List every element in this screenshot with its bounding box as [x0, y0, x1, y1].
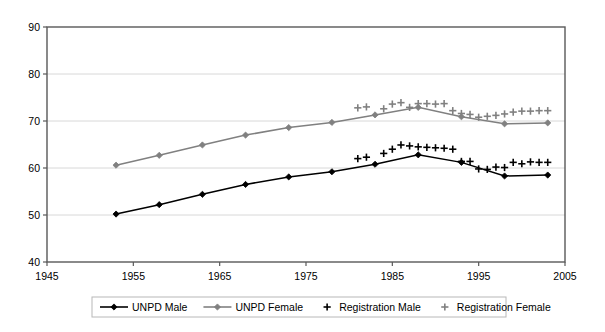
legend-label: UNPD Male	[132, 301, 188, 313]
y-axis-tick-label-40: 40	[28, 256, 40, 268]
y-axis-tick-label-90: 90	[28, 21, 40, 33]
chart-legend: UNPD MaleUNPD FemaleRegistration MaleReg…	[92, 297, 551, 317]
legend-label: Registration Male	[339, 301, 421, 313]
x-axis-tick-label-1965: 1965	[208, 270, 232, 282]
legend-label: Registration Female	[457, 301, 551, 313]
x-axis-tick-label-1945: 1945	[35, 270, 59, 282]
x-axis-tick-label-1995: 1995	[467, 270, 491, 282]
x-axis-tick-label-1985: 1985	[381, 270, 405, 282]
x-axis-tick-label-1955: 1955	[122, 270, 146, 282]
y-axis-tick-label-70: 70	[28, 115, 40, 127]
legend-item-registration-female[interactable]: Registration Female	[441, 301, 551, 313]
y-axis-tick-label-80: 80	[28, 68, 40, 80]
life-expectancy-line-chart: 4050607080901945195519651975198519952005…	[0, 0, 605, 332]
legend-item-registration-male[interactable]: Registration Male	[324, 301, 421, 313]
chart-figure: 4050607080901945195519651975198519952005…	[0, 0, 605, 332]
y-axis-tick-label-50: 50	[28, 209, 40, 221]
plot-area-background	[47, 27, 565, 262]
y-axis-tick-label-60: 60	[28, 162, 40, 174]
legend-label: UNPD Female	[235, 301, 303, 313]
x-axis-tick-label-2005: 2005	[553, 270, 577, 282]
x-axis-tick-label-1975: 1975	[294, 270, 318, 282]
